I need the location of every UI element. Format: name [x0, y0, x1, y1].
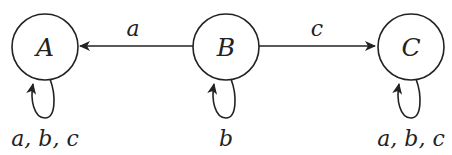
- state-b-label: B: [216, 33, 235, 62]
- self-loop-a-arrow: [32, 79, 54, 118]
- state-c-label: C: [401, 33, 420, 62]
- transition-b-to-c: c: [259, 16, 375, 46]
- state-a-label: A: [34, 33, 54, 62]
- self-loop-b-label: b: [219, 126, 233, 151]
- self-loop-a-label: a, b, c: [11, 126, 79, 151]
- state-a: A: [12, 14, 78, 80]
- self-loop-b: b: [213, 79, 235, 151]
- self-loop-a: a, b, c: [11, 79, 79, 151]
- automaton-diagram: A B C a c a, b, c b a, b, c: [0, 0, 452, 155]
- state-b: B: [193, 14, 259, 80]
- state-c: C: [378, 14, 444, 80]
- self-loop-c: a, b, c: [377, 79, 445, 151]
- self-loop-b-arrow: [213, 79, 235, 118]
- transition-label-c: c: [311, 16, 323, 41]
- self-loop-c-label: a, b, c: [377, 126, 445, 151]
- transition-label-a: a: [126, 16, 139, 41]
- self-loop-c-arrow: [398, 79, 420, 118]
- transition-b-to-a: a: [80, 16, 193, 46]
